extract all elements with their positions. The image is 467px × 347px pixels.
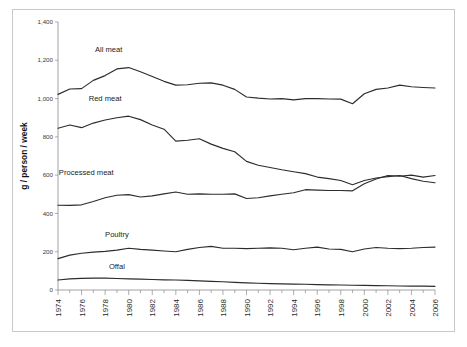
y-axis: 02004006008001,0001,2001,400 (38, 18, 58, 293)
x-tick-label: 1976 (78, 298, 87, 316)
x-tick-label: 1982 (148, 298, 157, 316)
series-line-red-meat (58, 116, 435, 185)
x-tick-label: 1988 (219, 298, 228, 316)
x-tick-label: 1980 (125, 298, 134, 316)
series-label-all-meat: All meat (95, 45, 123, 54)
y-tick-label: 1,400 (38, 18, 54, 25)
line-chart: 02004006008001,0001,2001,400 19741976197… (0, 0, 467, 347)
x-axis: 1974197619781980198219841986198819901992… (54, 290, 440, 317)
y-axis-title: g / person / week (19, 122, 29, 190)
x-tick-label: 1994 (290, 298, 299, 316)
y-tick-label: 800 (43, 133, 54, 140)
series-line-processed-meat (58, 175, 435, 205)
y-tick-label: 600 (43, 171, 54, 178)
y-tick-label: 400 (43, 210, 54, 217)
series-labels: All meatRed meatProcessed meatPoultryOff… (59, 45, 129, 272)
x-tick-label: 1990 (243, 298, 252, 316)
y-tick-label: 1,200 (38, 56, 54, 63)
x-tick-label: 1998 (337, 298, 346, 316)
x-tick-label: 2002 (384, 298, 393, 316)
x-tick-label: 1996 (313, 298, 322, 316)
x-tick-label: 1978 (101, 298, 110, 316)
x-tick-label: 1984 (172, 298, 181, 316)
x-tick-label: 1986 (196, 298, 205, 316)
y-tick-label: 0 (50, 286, 54, 293)
y-axis-title-text: g / person / week (19, 122, 29, 190)
series-label-poultry: Poultry (105, 230, 129, 239)
series-label-processed-meat: Processed meat (59, 168, 115, 177)
series-label-red-meat: Red meat (89, 94, 123, 103)
y-tick-label: 200 (43, 248, 54, 255)
x-tick-label: 1992 (266, 298, 275, 316)
series-line-poultry (58, 246, 435, 258)
x-tick-label: 1974 (54, 298, 63, 316)
x-tick-label: 2006 (431, 298, 440, 316)
series-label-offal: Offal (109, 262, 125, 271)
chart-figure: 02004006008001,0001,2001,400 19741976197… (0, 0, 467, 347)
y-tick-label: 1,000 (38, 95, 54, 102)
x-tick-label: 2004 (408, 298, 417, 316)
x-tick-label: 2000 (361, 298, 370, 316)
series-line-offal (58, 278, 435, 286)
